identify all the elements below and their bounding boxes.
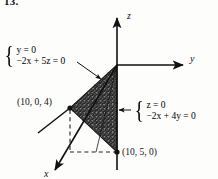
z-axis-label: z [127, 10, 131, 22]
equation-system-left: { y = 0 −2x + 5z = 0 [3, 44, 65, 66]
leader-line-left [77, 62, 101, 79]
equation-left-line-2: −2x + 5z = 0 [16, 56, 65, 66]
brace-right-icon: { [135, 99, 144, 121]
x-axis-label: x [44, 168, 48, 179]
equation-right-line-2: −2x + 4y = 0 [146, 111, 195, 121]
coordinate-axes-diagram [0, 0, 218, 179]
equation-right-line-1: z = 0 [146, 100, 195, 110]
point-label-10-0-4: (10, 0, 4) [17, 97, 52, 108]
plane-trace-line [38, 108, 70, 133]
y-axis-label: y [190, 53, 194, 65]
brace-left-icon: { [5, 44, 14, 66]
point-label-10-5-0: (10, 5, 0) [122, 147, 157, 158]
equation-system-right: { z = 0 −2x + 4y = 0 [133, 99, 196, 121]
problem-number: 13. [4, 0, 18, 8]
figure-container: 13. z y x (10, 0, 4) (10, 5, 0) { y = 0 … [0, 0, 218, 179]
equation-left-line-1: y = 0 [16, 45, 65, 55]
